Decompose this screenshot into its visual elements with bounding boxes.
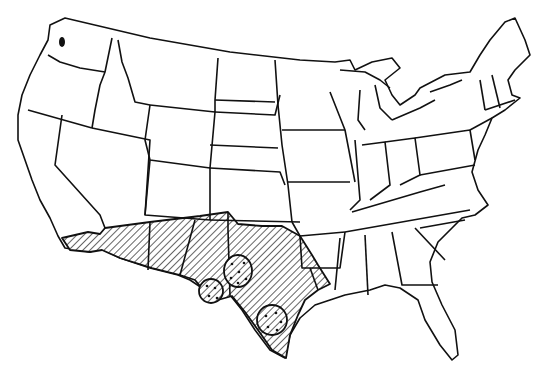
cluster-west-texas	[199, 279, 223, 303]
cluster-central-texas	[224, 255, 252, 287]
puget-sound-mark	[59, 37, 65, 47]
cluster-gulf-coast-texas	[257, 305, 287, 335]
us-range-map	[0, 0, 547, 374]
shaded-range	[62, 212, 330, 358]
